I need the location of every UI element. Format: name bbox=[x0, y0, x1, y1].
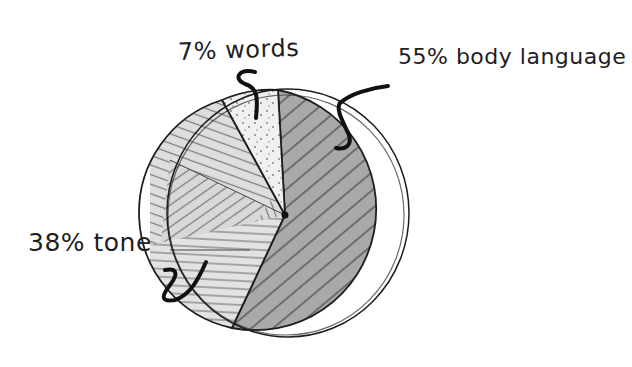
label-words: 7% words bbox=[178, 34, 300, 66]
center-dot bbox=[282, 212, 289, 219]
label-body-language: 55% body language bbox=[398, 44, 626, 69]
label-tone: 38% tone bbox=[28, 228, 152, 257]
